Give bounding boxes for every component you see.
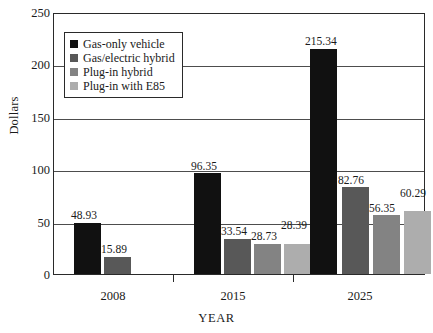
bar-label-2015-gas-electric-hybrid: 33.54 <box>221 226 247 238</box>
legend-item-gas-only-vehicle: Gas-only vehicle <box>70 37 175 51</box>
y-tick-label-200: 200 <box>16 59 50 72</box>
legend-item-plug-in-hybrid: Plug-in hybrid <box>70 65 175 79</box>
bar-2025-plug-in-hybrid <box>373 215 400 274</box>
bar-label-2015-plug-in-hybrid: 28.73 <box>251 231 277 243</box>
y-tick-label-250: 250 <box>16 7 50 20</box>
legend-label-gas-only-vehicle: Gas-only vehicle <box>83 38 165 50</box>
legend-item-plug-in-with-e85: Plug-in with E85 <box>70 79 175 93</box>
bar-label-2008-gas-electric-hybrid: 15.89 <box>101 244 127 256</box>
bar-2008-gas-electric-hybrid <box>104 257 131 274</box>
bar-label-2025-gas-electric-hybrid: 82.76 <box>338 175 364 187</box>
legend-label-gas-electric-hybrid: Gas/electric hybrid <box>83 52 175 64</box>
bar-2015-plug-in-hybrid <box>254 244 281 274</box>
y-axis-tick-labels: 250 200 150 100 50 0 <box>12 0 50 333</box>
legend-swatch-icon-gas-only-vehicle <box>70 40 78 48</box>
legend-swatch-icon-gas-electric-hybrid <box>70 54 78 62</box>
bar-label-2025-gas-only-vehicle: 215.34 <box>305 36 337 48</box>
y-tick-label-150: 150 <box>16 112 50 125</box>
x-axis-title: YEAR <box>0 311 433 326</box>
legend: Gas-only vehicle Gas/electric hybrid Plu… <box>64 32 183 98</box>
bar-2025-gas-electric-hybrid <box>342 187 369 274</box>
bar-2008-gas-only-vehicle <box>74 223 101 274</box>
plot-area: 48.93 15.89 96.35 33.54 28.73 28.39 215.… <box>53 13 425 275</box>
legend-swatch-icon-plug-in-with-e85 <box>70 82 78 90</box>
bar-2015-gas-electric-hybrid <box>224 239 251 274</box>
x-tick-label-2008: 2008 <box>101 289 126 304</box>
bar-2015-gas-only-vehicle <box>194 173 221 274</box>
bar-2015-plug-in-with-e85 <box>284 244 311 274</box>
y-tick-label-0: 0 <box>16 269 50 282</box>
legend-swatch-icon-plug-in-hybrid <box>70 68 78 76</box>
x-tick-label-2015: 2015 <box>221 289 246 304</box>
y-tick-label-100: 100 <box>16 164 50 177</box>
x-tick-mark-1 <box>173 275 174 282</box>
bar-label-2015-plug-in-with-e85: 28.39 <box>281 220 307 232</box>
legend-item-gas-electric-hybrid: Gas/electric hybrid <box>70 51 175 65</box>
legend-label-plug-in-hybrid: Plug-in hybrid <box>83 66 153 78</box>
y-tick-label-50: 50 <box>16 216 50 229</box>
bar-2025-gas-only-vehicle <box>310 49 337 275</box>
bar-label-2015-gas-only-vehicle: 96.35 <box>191 161 217 173</box>
legend-label-plug-in-with-e85: Plug-in with E85 <box>83 80 165 92</box>
bar-chart: Dollars 250 200 150 100 50 0 48.93 15.89… <box>0 0 433 333</box>
x-tick-label-2025: 2025 <box>348 289 373 304</box>
bar-label-2025-plug-in-hybrid: 56.35 <box>369 203 395 215</box>
bar-label-2008-gas-only-vehicle: 48.93 <box>71 210 97 222</box>
bar-2025-plug-in-with-e85 <box>404 211 431 274</box>
bar-label-2025-plug-in-with-e85: 60.29 <box>400 188 426 200</box>
x-tick-mark-2 <box>293 275 294 282</box>
